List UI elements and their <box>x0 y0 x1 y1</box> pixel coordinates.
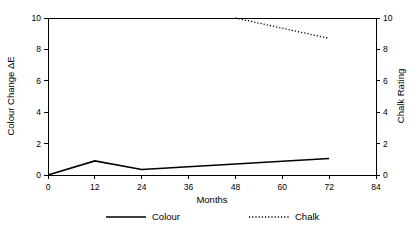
right-y-axis: 0246810 <box>376 13 393 180</box>
right-axis-tick-label: 8 <box>383 44 388 54</box>
left-axis-tick-label: 0 <box>36 170 41 180</box>
right-axis-tick-label: 10 <box>383 13 393 23</box>
left-axis-tick-label: 8 <box>36 44 41 54</box>
right-axis-tick-label: 2 <box>383 139 388 149</box>
x-axis: 012243648607284 <box>46 175 381 192</box>
series-line-colour <box>48 159 329 175</box>
legend-label-chalk: Chalk <box>295 211 320 222</box>
right-axis-title: Chalk Rating <box>395 69 406 123</box>
left-axis-tick-label: 10 <box>32 13 42 23</box>
left-axis-title: Colour Change ΔE <box>5 56 16 135</box>
right-axis-tick-label: 4 <box>383 107 388 117</box>
left-y-axis: 0246810 <box>32 13 48 180</box>
left-axis-tick-label: 4 <box>36 107 41 117</box>
right-axis-tick-label: 6 <box>383 76 388 86</box>
plot-frame <box>48 18 376 175</box>
legend-label-colour: Colour <box>152 211 180 222</box>
x-axis-tick-label: 12 <box>90 182 100 192</box>
series-line-chalk <box>235 18 329 38</box>
x-axis-tick-label: 36 <box>184 182 194 192</box>
x-axis-tick-label: 60 <box>278 182 288 192</box>
x-axis-tick-label: 24 <box>137 182 147 192</box>
x-axis-tick-label: 48 <box>231 182 241 192</box>
x-axis-title: Months <box>196 194 227 205</box>
x-axis-tick-label: 84 <box>371 182 381 192</box>
right-axis-tick-label: 0 <box>383 170 388 180</box>
left-axis-tick-label: 6 <box>36 76 41 86</box>
data-series-group <box>48 18 329 175</box>
x-axis-tick-label: 72 <box>324 182 334 192</box>
chart-figure: 0246810 Colour Change ΔE 0246810 Chalk R… <box>0 0 416 236</box>
chart-legend: ColourChalk <box>106 211 320 222</box>
plot-area-border <box>48 18 376 175</box>
left-axis-tick-label: 2 <box>36 139 41 149</box>
x-axis-tick-label: 0 <box>46 182 51 192</box>
